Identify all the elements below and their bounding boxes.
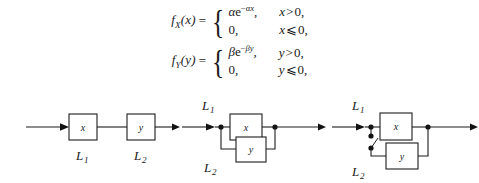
series-label-l1-sub: 1 — [84, 155, 89, 165]
parallel-output-arrowhead — [318, 124, 326, 131]
diagram-series: x y L 1 L 2 — [22, 96, 182, 183]
equation-fx-equals: = — [199, 14, 206, 29]
equation-fx-cases: αe−αx, x>0, 0, x⩽0, — [228, 4, 307, 38]
switch-label-l2: L — [351, 164, 359, 179]
equation-fy-lhs: fY(y) — [172, 53, 196, 70]
parallel-label-l2-sub: 2 — [212, 167, 217, 177]
series-box-y-label: y — [138, 122, 144, 133]
parallel-label-l2: L — [203, 160, 211, 175]
diagram-row: x y L 1 L 2 x — [0, 96, 479, 183]
equation-fy-equals: = — [199, 54, 206, 69]
switch-box-y-label: y — [399, 151, 405, 162]
parallel-input-arrowhead — [206, 124, 215, 131]
parallel-bottom-right-wire — [266, 127, 275, 149]
switch-upper-contact — [368, 133, 373, 138]
series-box-x-label: x — [80, 122, 86, 133]
equation-fx-case1-condition: x>0, — [279, 5, 308, 20]
switch-box-x-label: x — [393, 121, 399, 132]
series-input-arrowhead — [60, 123, 69, 131]
switch-bottom-right-wire — [418, 127, 428, 156]
diagram-parallel: x y L 1 L 2 — [180, 96, 330, 183]
equation-fx-case2-value: 0, — [228, 23, 257, 38]
diagram-switch: x y L 1 L 2 — [330, 96, 479, 183]
equation-fy-case1-value: βe−βy, — [228, 44, 256, 60]
parallel-label-l1: L — [201, 98, 209, 113]
series-label-l1: L — [75, 148, 83, 163]
series-label-l2-sub: 2 — [142, 155, 147, 165]
series-label-l2: L — [133, 148, 141, 163]
formula-block: fX(x) = { αe−αx, x>0, 0, x⩽0, fY(y) = { … — [0, 4, 479, 78]
switch-input-arrowhead — [356, 124, 365, 131]
equation-fy-case2-value: 0, — [228, 63, 256, 78]
switch-label-l2-sub: 2 — [360, 171, 365, 181]
equation-fx-argument: (x) — [181, 12, 196, 27]
equation-fy-case1-condition: y>0, — [279, 46, 308, 61]
parallel-box-x-label: x — [243, 122, 249, 133]
switch-label-l1: L — [351, 98, 359, 113]
equation-fx-case2-condition: x⩽0, — [279, 23, 308, 38]
switch-label-l1-sub: 1 — [360, 105, 365, 115]
parallel-box-y-label: y — [248, 144, 254, 155]
switch-blade — [371, 138, 378, 148]
equation-fy-argument: (y) — [181, 52, 196, 67]
equation-fy-case2-condition: y⩽0, — [279, 63, 308, 78]
series-output-arrowhead — [172, 124, 180, 131]
parallel-label-l1-sub: 1 — [210, 105, 215, 115]
equation-fy-cases: βe−βy, y>0, 0, y⩽0, — [228, 44, 307, 78]
switch-output-arrowhead — [470, 124, 478, 131]
equation-fx-lhs: fX(x) — [171, 13, 196, 30]
equation-fx-case1-value: αe−αx, — [228, 4, 257, 20]
equation-fx: fX(x) = { αe−αx, x>0, 0, x⩽0, — [171, 4, 308, 38]
equation-fy: fY(y) = { βe−βy, y>0, 0, y⩽0, — [172, 44, 308, 78]
